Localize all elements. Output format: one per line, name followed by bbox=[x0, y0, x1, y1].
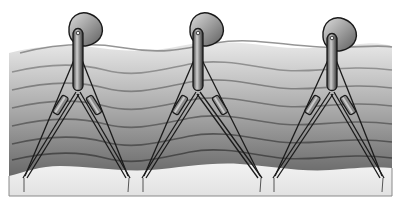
tube-cap-icon bbox=[330, 36, 334, 40]
mooring-illustration bbox=[0, 0, 403, 206]
illustration-canvas bbox=[0, 0, 403, 206]
tube-cap-icon bbox=[76, 31, 80, 35]
tube-cap-icon bbox=[196, 31, 200, 35]
central-tube bbox=[193, 29, 203, 91]
central-tube bbox=[73, 29, 83, 91]
central-tube bbox=[327, 34, 337, 91]
